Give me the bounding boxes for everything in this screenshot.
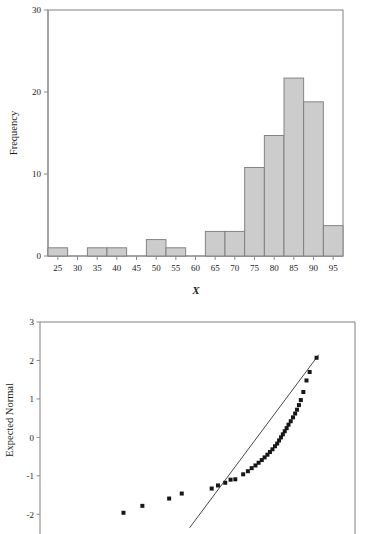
qq-data-point	[223, 481, 227, 485]
histogram-y-tick-label: 10	[32, 169, 42, 179]
qq-y-tick-label: -2	[27, 510, 35, 520]
qq-data-point	[301, 390, 305, 394]
histogram-bar	[284, 78, 304, 256]
qq-data-point	[308, 370, 312, 374]
histogram-x-tick-label: 60	[191, 263, 201, 273]
qq-data-point	[246, 469, 250, 473]
qq-data-point	[180, 492, 184, 496]
histogram-bar	[146, 240, 166, 256]
figure-page: 0102030 253035404550556065707580859095 F…	[0, 0, 372, 534]
histogram-y-tick-label: 0	[37, 251, 42, 261]
qq-data-point	[299, 398, 303, 402]
qq-data-point	[229, 478, 233, 482]
histogram-bar	[323, 226, 343, 256]
qq-y-tick-label: 3	[30, 317, 35, 327]
histogram-x-tick-label: 45	[132, 263, 142, 273]
histogram-x-axis-title: X	[191, 284, 200, 296]
qq-data-point	[233, 477, 237, 481]
histogram-bar	[87, 248, 107, 256]
histogram-x-tick-label: 65	[211, 263, 221, 273]
qq-y-tick-label: 2	[30, 356, 35, 366]
histogram-figure: 0102030 253035404550556065707580859095 F…	[0, 0, 372, 300]
qq-data-point	[121, 511, 125, 515]
histogram-x-tick-label: 30	[73, 263, 83, 273]
qq-data-point	[287, 423, 291, 427]
qq-data-point	[210, 487, 214, 491]
qq-data-point	[295, 408, 299, 412]
histogram-x-tick-label: 90	[309, 263, 319, 273]
histogram-y-axis-title: Frequency	[8, 110, 19, 155]
qq-data-point	[285, 426, 289, 430]
qq-plot-y-axis-title: Expected Normal	[4, 383, 15, 457]
histogram-x-tick-label: 95	[329, 263, 339, 273]
histogram-x-tick-label: 55	[171, 263, 181, 273]
qq-data-point	[304, 378, 308, 382]
histogram-x-tick-label: 50	[152, 263, 162, 273]
histogram-y-tick-label: 30	[32, 5, 42, 15]
histogram-x-tick-label: 35	[93, 263, 103, 273]
histogram-x-tick-label: 70	[230, 263, 240, 273]
histogram-bar	[245, 167, 265, 256]
qq-data-point	[297, 403, 301, 407]
qq-data-point	[250, 466, 254, 470]
histogram-x-tick-label: 80	[270, 263, 280, 273]
histogram-bar	[225, 231, 245, 256]
qq-data-point	[241, 472, 245, 476]
histogram-y-tick-label: 20	[32, 87, 42, 97]
qq-data-point	[216, 483, 220, 487]
qq-data-point	[291, 415, 295, 419]
qq-data-point	[167, 497, 171, 501]
qq-y-tick-label: -1	[27, 471, 35, 481]
histogram-x-tick-label: 40	[112, 263, 122, 273]
qq-data-point	[140, 504, 144, 508]
histogram-bar	[48, 248, 68, 256]
qq-y-tick-label: 0	[30, 433, 35, 443]
qq-data-point	[315, 356, 319, 360]
histogram-bar	[107, 248, 127, 256]
qq-plot-svg: 3210-1-2 Expected Normal	[0, 300, 372, 534]
histogram-x-tick-label: 85	[289, 263, 299, 273]
histogram-svg: 0102030 253035404550556065707580859095 F…	[0, 0, 372, 300]
histogram-bar	[304, 102, 324, 256]
qq-plot-background	[0, 300, 372, 534]
qq-data-point	[289, 419, 293, 423]
histogram-x-tick-label: 75	[250, 263, 260, 273]
qq-y-tick-label: 1	[30, 394, 35, 404]
histogram-bar	[205, 231, 225, 256]
qq-plot-figure: 3210-1-2 Expected Normal	[0, 300, 372, 534]
qq-data-point	[293, 412, 297, 416]
histogram-bar	[166, 248, 186, 256]
histogram-x-tick-label: 25	[53, 263, 63, 273]
histogram-bar	[264, 135, 284, 256]
